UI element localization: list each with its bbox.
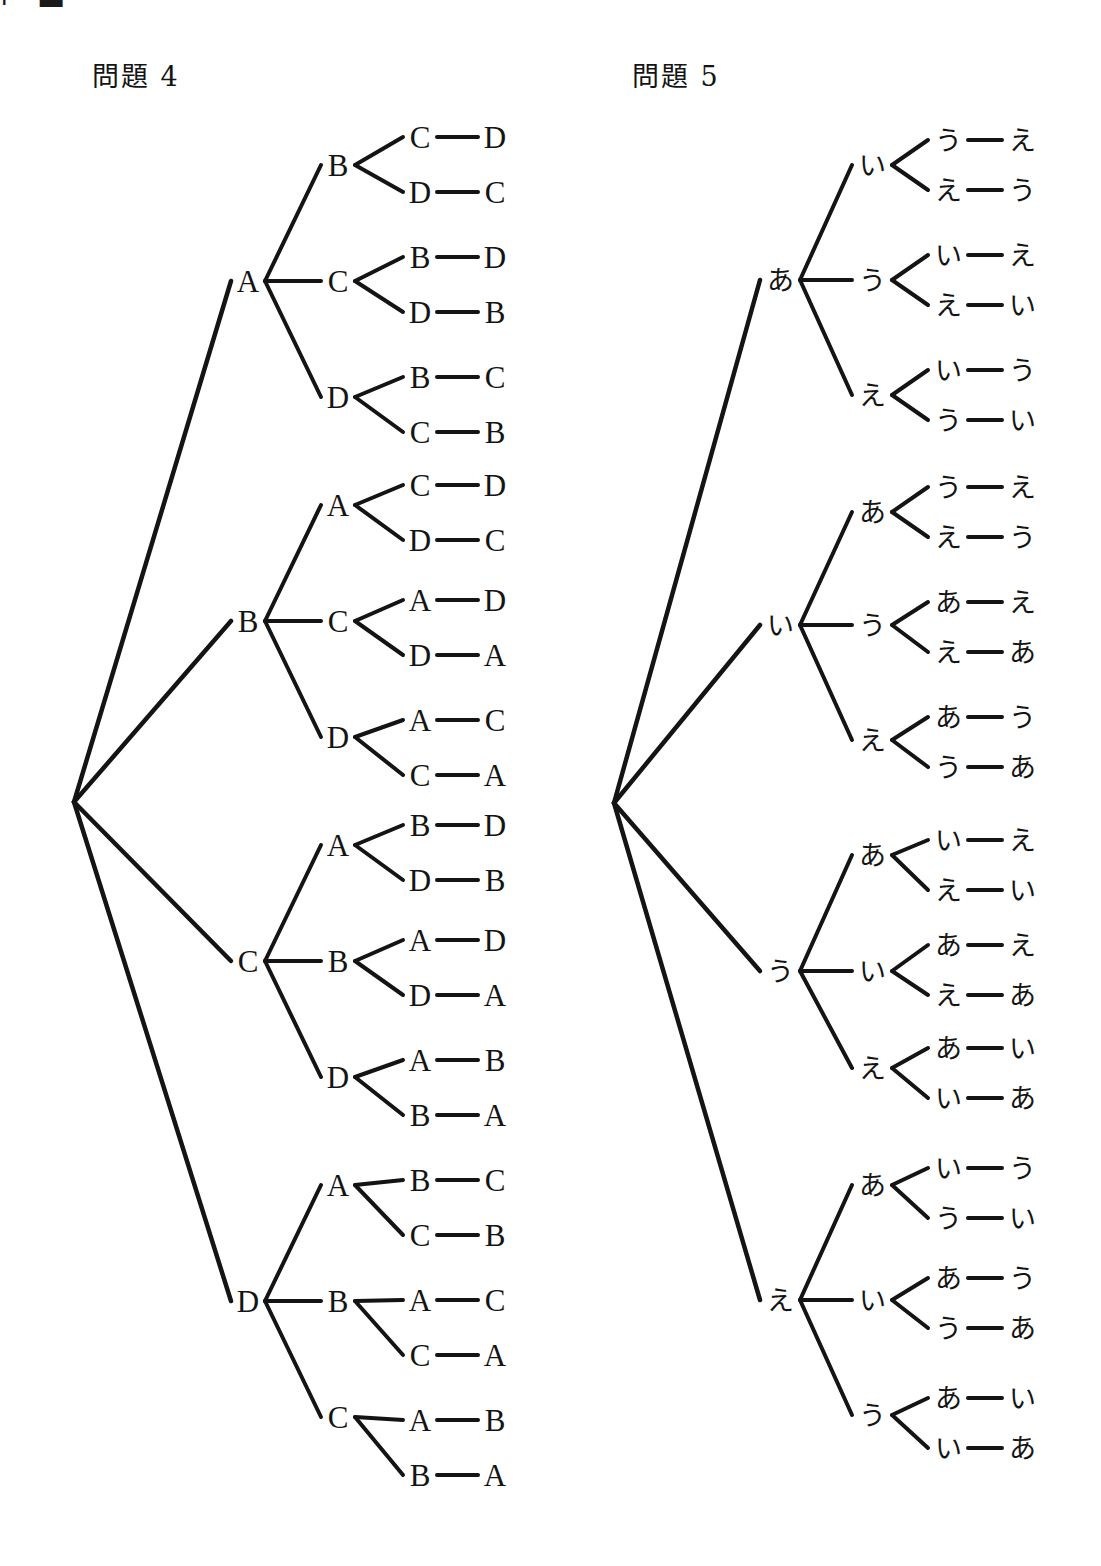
problem-5-g2-b2-node-level2: え [859,1055,886,1082]
problem-4-g3-b0-edge1 [265,1185,321,1301]
problem-4-g3-b0-l1-node-level3: C [410,1220,431,1251]
problem-5-g2-b0-l0-edge2 [892,840,928,855]
problem-4-g3-b2-l0-node-level3: A [409,1405,431,1436]
problem-5-g2-b0-node-level2: あ [859,842,886,869]
problem-5-g0-b2-l0-node-level3: い [935,357,962,384]
problem-5-g3-b1-l0-node-level4: う [1009,1265,1036,1292]
problem-5-g1-b0-l0-node-level3: う [935,474,962,501]
problem-4-g0-b1-l0-edge2 [355,257,403,281]
problem-4-g3-b1-l0-edge2 [355,1300,403,1301]
problem-5-g1-b0-l1-edge2 [892,512,928,537]
problem-4-g1-b0-l1-node-level4: C [485,525,506,556]
problem-5-g3-b2-l0-node-level4: い [1009,1385,1036,1412]
problem-4-g2-b0-node-level2: A [327,830,349,861]
problem-4-g0-b1-l0-node-level4: D [484,242,506,273]
problem-5-g0-root-edge [614,280,760,803]
problem-4-g0-b2-node-level2: D [327,382,349,413]
worksheet-page: ⌐ ▬ 問題 4 問題 5 ABCDDCCBDDBDBCCBBACDDCCADD… [0,0,1101,1566]
problem-4-g1-b1-l1-node-level4: A [484,640,506,671]
problem-5-g0-b0-l0-edge2 [892,140,928,165]
problem-5-g3-b2-l1-node-level3: い [935,1435,962,1462]
problem-5-g2-b2-l0-edge2 [892,1048,928,1068]
problem-4-g3-b2-edge1 [265,1301,321,1417]
problem-4-g0-b0-node-level2: B [328,150,349,181]
problem-4-g3-node-level1: D [237,1286,259,1317]
problem-5-g3-b0-l0-node-level4: う [1009,1155,1036,1182]
problem-4-g1-b2-l1-node-level4: A [484,760,506,791]
problem-4-g3-b0-node-level2: A [327,1170,349,1201]
problem-5-g2-b2-edge1 [800,971,852,1068]
problem-5-g0-b1-l1-edge2 [892,280,928,305]
problem-5-g0-b0-edge1 [800,165,852,280]
problem-5-g1-b0-edge1 [800,512,852,625]
problem-4-g0-b0-l0-edge2 [355,137,403,165]
problem-4-g2-b0-l1-edge2 [355,845,403,880]
problem-4-g1-b0-l1-edge2 [355,505,403,540]
problem-5-g0-b1-l0-node-level3: い [935,242,962,269]
problem-5-g2-b2-l0-node-level4: い [1009,1035,1036,1062]
problem-4-g0-b0-edge1 [265,165,321,281]
problem-5-g3-b0-l0-edge2 [892,1168,928,1185]
problem-5-g1-b2-l0-node-level3: あ [935,704,962,731]
problem-4-g2-b1-l1-node-level4: A [484,980,506,1011]
problem-4-g0-b2-l1-node-level3: C [410,417,431,448]
problem-4-g0-b2-l0-node-level3: B [410,362,431,393]
problem-5-g2-b0-l1-edge2 [892,855,928,890]
problem-5-g1-b0-l0-node-level4: え [1009,474,1036,501]
problem-4-g1-root-edge [74,621,231,802]
problem-5-g2-b0-l1-node-level4: い [1009,877,1036,904]
problem-4-g2-b0-l1-node-level3: D [409,865,431,896]
problem-5-g3-b1-l1-node-level3: う [935,1315,962,1342]
problem-5-g2-b0-l0-node-level4: え [1009,827,1036,854]
problem-5-g1-b1-l1-node-level4: あ [1009,639,1036,666]
problem-5-g1-b2-edge1 [800,625,852,740]
section-title-problem-5: 問題 5 [632,62,720,92]
problem-4-g3-b0-l1-node-level4: B [485,1220,506,1251]
problem-5-g2-b1-l0-node-level4: え [1009,932,1036,959]
problem-5-g2-b1-l1-node-level4: あ [1009,982,1036,1009]
problem-4-g2-b2-edge1 [265,961,321,1077]
section-title-problem-4: 問題 4 [92,62,180,92]
problem-4-g1-node-level1: B [238,606,259,637]
problem-5-g2-root-edge [614,803,760,971]
problem-4-g1-b1-l1-edge2 [355,621,403,655]
problem-5-g3-root-edge [614,803,760,1300]
problem-4-g2-root-edge [74,802,231,961]
problem-5-g1-b0-node-level2: あ [859,499,886,526]
problem-4-g2-b1-l0-node-level4: D [484,925,506,956]
problem-5-g0-b0-l0-node-level4: え [1009,127,1036,154]
problem-4-g3-b2-l0-edge2 [355,1417,403,1420]
problem-4-g3-b0-l1-edge2 [355,1185,403,1235]
problem-5-g1-b2-l0-node-level4: う [1009,704,1036,731]
problem-5-g1-b1-l1-edge2 [892,625,928,652]
problem-4-g0-b0-l0-node-level3: C [410,122,431,153]
problem-4-g2-b0-l0-node-level4: D [484,810,506,841]
problem-4-g3-b2-node-level2: C [328,1402,349,1433]
problem-5-g3-b2-l0-node-level3: あ [935,1385,962,1412]
problem-4-g1-b2-node-level2: D [327,722,349,753]
problem-5-g0-b1-l1-node-level3: え [935,292,962,319]
problem-5-g3-b0-edge1 [800,1185,852,1300]
problem-4-g1-b2-l0-edge2 [355,720,403,737]
problem-4-g0-b0-l1-node-level3: D [409,177,431,208]
problem-5-g3-b1-l1-edge2 [892,1300,928,1328]
problem-4-g3-b0-l0-node-level4: C [485,1165,506,1196]
problem-5-g1-b2-l0-edge2 [892,717,928,740]
problem-4-g0-b0-l1-node-level4: C [485,177,506,208]
problem-5-g3-b0-l0-node-level3: い [935,1155,962,1182]
problem-4-g2-b1-node-level2: B [328,946,349,977]
problem-5-g0-b2-node-level2: え [859,382,886,409]
problem-4-g3-b1-l1-node-level3: C [410,1340,431,1371]
problem-5-g3-b1-l0-edge2 [892,1278,928,1300]
problem-4-g1-b1-node-level2: C [328,606,349,637]
problem-5-g2-b1-node-level2: い [859,958,886,985]
problem-5-g2-b0-l1-node-level3: え [935,877,962,904]
problem-4-g3-b1-l0-node-level4: C [485,1285,506,1316]
problem-4-g0-b2-l1-edge2 [355,397,403,432]
problem-5-g0-b2-l0-edge2 [892,370,928,395]
problem-5-g0-b1-l0-node-level4: え [1009,242,1036,269]
problem-5-g1-b2-l1-edge2 [892,740,928,767]
problem-4-g1-b0-edge1 [265,505,321,621]
problem-5-g2-b1-l0-node-level3: あ [935,932,962,959]
problem-5-g1-b0-l1-node-level4: う [1009,524,1036,551]
